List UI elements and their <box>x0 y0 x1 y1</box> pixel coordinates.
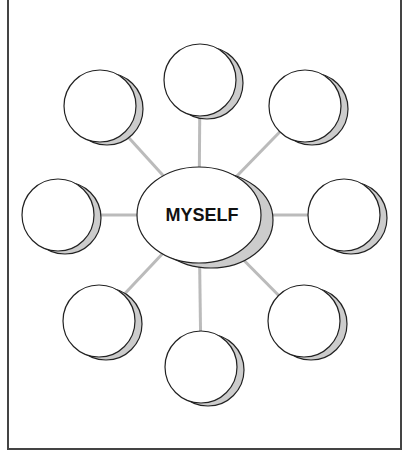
node-top-left[interactable] <box>64 70 143 145</box>
node-circle[interactable] <box>63 285 135 357</box>
node-circle[interactable] <box>64 70 136 142</box>
node-right[interactable] <box>308 179 387 254</box>
node-circle[interactable] <box>165 331 237 403</box>
node-bottom-left[interactable] <box>63 285 142 360</box>
node-circle[interactable] <box>268 285 340 357</box>
concept-web-diagram: MYSELF <box>0 0 411 459</box>
node-bottom-right[interactable] <box>268 285 347 360</box>
node-top-right[interactable] <box>269 70 348 145</box>
node-left[interactable] <box>22 179 101 254</box>
node-bottom[interactable] <box>165 331 244 406</box>
node-circle[interactable] <box>269 70 341 142</box>
node-top[interactable] <box>164 44 243 119</box>
center-node[interactable]: MYSELF <box>137 167 273 268</box>
node-circle[interactable] <box>22 179 94 251</box>
node-circle[interactable] <box>164 44 236 116</box>
center-label: MYSELF <box>165 205 238 225</box>
node-circle[interactable] <box>308 179 380 251</box>
